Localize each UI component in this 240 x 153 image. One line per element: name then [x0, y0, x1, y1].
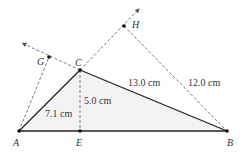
label-b: B	[227, 137, 233, 148]
label-c: C	[75, 57, 82, 68]
point-a	[17, 129, 21, 133]
line-c-to-g-extended	[24, 44, 80, 70]
label-e: E	[75, 137, 82, 148]
measure-ac: 7.1 cm	[45, 108, 72, 119]
point-c	[78, 68, 82, 72]
point-h	[122, 24, 126, 28]
point-e	[78, 129, 82, 133]
point-b	[225, 129, 229, 133]
label-h: H	[131, 19, 140, 30]
point-g	[47, 55, 51, 59]
measure-cb: 13.0 cm	[128, 77, 160, 88]
triangle-diagram: A B C E G H 7.1 cm 5.0 cm 13.0 cm 12.0 c…	[0, 0, 240, 153]
label-a: A	[12, 137, 20, 148]
measure-hb: 12.0 cm	[188, 77, 220, 88]
line-c-to-h-extended	[80, 10, 138, 70]
label-g: G	[37, 56, 44, 67]
measure-ce: 5.0 cm	[84, 95, 111, 106]
